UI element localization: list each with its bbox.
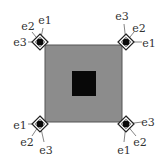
node-dot-icon [37, 39, 44, 46]
node-dot-icon [37, 121, 44, 128]
edge-label-e3: e3 [39, 145, 53, 156]
node-dot-icon [123, 121, 130, 128]
edge-label-e2: e2 [21, 21, 35, 32]
edge-label-e3: e3 [115, 11, 129, 22]
edge-label-e1: e1 [38, 15, 52, 26]
edge-label-e2: e2 [20, 137, 34, 148]
edge-label-e1: e1 [142, 38, 156, 49]
diagram-canvas: e1e2e3e3e2e1e1e2e3e3e2e1 [0, 0, 165, 162]
edge-label-e2: e2 [133, 137, 147, 148]
edge-label-e2: e2 [132, 23, 146, 34]
edge-label-e1: e1 [117, 145, 131, 156]
edge-label-e3: e3 [13, 37, 27, 48]
edge-label-e3: e3 [141, 117, 155, 128]
edge-label-e1: e1 [13, 120, 27, 131]
inner-square [72, 71, 96, 96]
node-dot-icon [123, 39, 130, 46]
